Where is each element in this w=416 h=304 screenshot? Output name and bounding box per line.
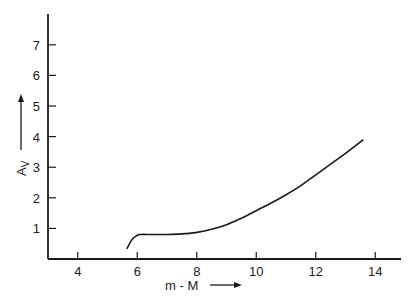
y-ticks: 1234567	[33, 38, 56, 237]
extinction-distance-chart: 468101214 1234567 m - M AV	[0, 0, 416, 304]
x-tick-label: 14	[368, 264, 382, 279]
x-ticks: 468101214	[74, 252, 382, 279]
y-tick-label: 5	[33, 99, 40, 114]
x-axis-title: m - M	[165, 278, 242, 293]
y-axis-title: AV	[14, 94, 31, 176]
data-curve	[127, 140, 363, 249]
y-axis-arrowhead-icon	[18, 94, 24, 102]
x-axis-title-text: m - M	[165, 278, 198, 293]
x-axis-arrowhead-icon	[234, 282, 242, 288]
y-axis-title-sub: V	[20, 160, 31, 167]
y-tick-label: 1	[33, 221, 40, 236]
y-tick-label: 7	[33, 38, 40, 53]
x-tick-label: 8	[193, 264, 200, 279]
y-axis-title-text: AV	[14, 160, 31, 176]
y-tick-label: 2	[33, 191, 40, 206]
x-tick-label: 6	[134, 264, 141, 279]
y-tick-label: 6	[33, 68, 40, 83]
x-tick-label: 12	[309, 264, 323, 279]
y-axis-title-main: A	[14, 167, 29, 176]
y-tick-label: 3	[33, 160, 40, 175]
axes	[48, 14, 401, 259]
x-tick-label: 10	[249, 264, 263, 279]
y-tick-label: 4	[33, 130, 40, 145]
x-tick-label: 4	[74, 264, 81, 279]
